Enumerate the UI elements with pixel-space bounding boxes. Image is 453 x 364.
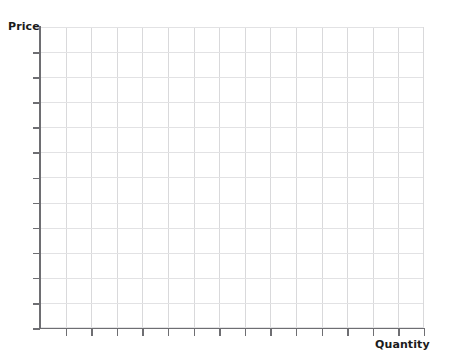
y-axis-tick (33, 102, 40, 104)
y-axis-tick (33, 228, 40, 230)
x-axis-tick (168, 329, 169, 336)
x-axis-tick (142, 329, 143, 336)
x-axis-label: Quantity (375, 338, 430, 351)
y-axis-tick (33, 328, 40, 330)
x-axis-tick (91, 329, 92, 336)
y-axis-tick (33, 127, 40, 129)
y-axis-tick (33, 77, 40, 79)
y-axis-tick (33, 178, 40, 180)
x-axis-tick (373, 329, 374, 336)
y-axis-label: Price (8, 20, 40, 33)
x-axis-tick (347, 329, 348, 336)
y-axis-tick (33, 52, 40, 54)
x-axis-tick (66, 329, 67, 336)
x-axis-tick (245, 329, 246, 336)
y-axis-tick (33, 152, 40, 154)
x-axis-tick (117, 329, 118, 336)
y-axis-tick (33, 278, 40, 280)
y-axis-tick (33, 203, 40, 205)
graph-screenshot: Price Quantity (0, 0, 453, 364)
y-axis-tick (33, 253, 40, 255)
vertical-gridlines (40, 27, 424, 328)
grid-right-edge (423, 27, 424, 328)
horizontal-gridlines (40, 27, 424, 328)
x-axis-tick (296, 329, 297, 336)
x-axis-tick (322, 329, 323, 336)
y-axis-tick (33, 303, 40, 305)
plot-area[interactable] (40, 27, 424, 328)
x-axis-line (39, 328, 425, 330)
x-axis-tick (424, 329, 425, 336)
x-axis-tick (398, 329, 399, 336)
x-axis-tick (219, 329, 220, 336)
x-axis-tick (270, 329, 271, 336)
x-axis-tick (194, 329, 195, 336)
